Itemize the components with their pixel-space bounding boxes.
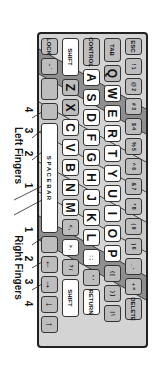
finger-leader-lines: [0, 0, 161, 382]
keyboard-diagram: ESC! 1@ 2# 3$ 4% 5^ 6& 7* 8( 9) 0_ -+ =D…: [0, 0, 161, 382]
